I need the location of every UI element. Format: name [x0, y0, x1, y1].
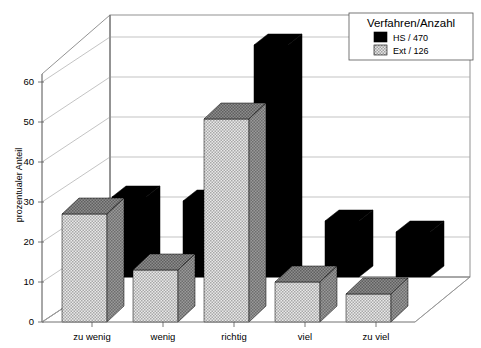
- bar-front-face: [396, 232, 430, 277]
- ytick-label-20: 20: [23, 236, 34, 247]
- depthline-60: [42, 37, 110, 82]
- ytick-label-10: 10: [23, 276, 34, 287]
- bar-front-face: [346, 294, 391, 322]
- xtick-label-richtig: richtig: [221, 331, 246, 342]
- xtick-label-zu-viel: zu viel: [363, 331, 390, 342]
- legend-title: Verfahren/Anzahl: [367, 17, 455, 29]
- ytick-label-60: 60: [23, 76, 34, 87]
- xtick-label-wenig: wenig: [150, 331, 176, 342]
- legend-label-hs: HS / 470: [393, 33, 428, 43]
- bar-ext-wenig[interactable]: [133, 254, 195, 322]
- ytick-label-30: 30: [23, 196, 34, 207]
- bar-side-face: [107, 198, 124, 322]
- y-axis-title: prozentualer Anteil: [14, 148, 24, 223]
- chart-container: 60 50 40 30 20 10 0 prozentualer Anteil: [0, 0, 481, 348]
- xtick-label-viel: viel: [298, 331, 312, 342]
- ytick-label-50: 50: [23, 116, 34, 127]
- xtick-label-zu-wenig: zu wenig: [73, 331, 111, 342]
- ytick-label-0: 0: [29, 316, 34, 327]
- y-axis: 60 50 40 30 20 10 0 prozentualer Anteil: [14, 74, 44, 327]
- bar-hs-zu-viel[interactable]: [396, 221, 444, 277]
- depthline-30: [42, 157, 110, 202]
- floor-right-edge: [415, 277, 470, 322]
- bar-front-face: [62, 214, 107, 322]
- legend-swatch-hs: [374, 32, 387, 42]
- bar-front-face: [133, 270, 178, 322]
- bar-front-face: [275, 282, 320, 322]
- x-axis: zu wenig wenig richtig viel zu viel: [73, 322, 389, 342]
- bar-chart-3d: 60 50 40 30 20 10 0 prozentualer Anteil: [0, 0, 481, 348]
- bar-ext-richtig[interactable]: [204, 103, 266, 322]
- bar-front-face: [204, 119, 249, 322]
- bar-side-face: [288, 34, 302, 277]
- bar-side-face: [359, 210, 373, 277]
- bar-ext-zu-wenig[interactable]: [62, 198, 124, 322]
- depthline-40: [42, 117, 110, 162]
- bar-ext-viel[interactable]: [275, 266, 337, 322]
- bar-ext-zu-viel[interactable]: [346, 278, 408, 322]
- bar-side-face: [249, 103, 266, 322]
- legend-label-ext: Ext / 126: [393, 46, 429, 56]
- ytick-label-40: 40: [23, 156, 34, 167]
- legend[interactable]: Verfahren/Anzahl HS / 470 Ext / 126: [349, 13, 473, 60]
- legend-swatch-ext: [374, 45, 387, 55]
- depthline-50: [42, 77, 110, 122]
